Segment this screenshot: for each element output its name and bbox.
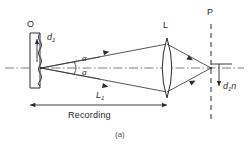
angle-upper-label: α: [82, 55, 87, 63]
focus-point: [210, 67, 212, 69]
figure-caption: (a): [115, 131, 125, 139]
plane-label: P: [207, 8, 213, 17]
figure-container: O d1 α α L P d1n L1 Recording (a): [0, 0, 249, 148]
angle-lower-label: α: [82, 69, 87, 77]
process-label: Recording: [68, 111, 111, 120]
source-point: [40, 67, 42, 69]
object-label: O: [27, 20, 34, 29]
object-plate: [30, 33, 42, 88]
recording-distance-label: L1: [96, 91, 104, 100]
biconvex-lens: [162, 38, 172, 98]
rays-lens-to-plane: [167, 44, 211, 92]
optical-diagram-svg: [0, 0, 249, 148]
image-height-label: d1n: [223, 82, 236, 91]
lens-label: L: [163, 21, 168, 30]
object-height-label: d1: [47, 33, 55, 42]
